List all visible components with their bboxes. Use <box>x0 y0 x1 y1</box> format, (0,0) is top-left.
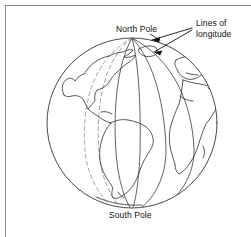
globe-outline <box>47 38 217 208</box>
lines-of-longitude-label-line2: longitude <box>196 29 231 39</box>
annotation-arrows <box>152 28 192 55</box>
solid-meridian-2 <box>132 38 140 207</box>
lines-of-longitude-label: Lines of longitude <box>196 18 250 39</box>
continent-europe-detail <box>186 73 198 75</box>
figure-canvas: North Pole South Pole Lines of longitude <box>0 0 251 237</box>
south-pole-label: South Pole <box>109 210 152 220</box>
continent-south-america <box>100 120 154 199</box>
continent-arabia <box>208 88 217 99</box>
north-pole-label: North Pole <box>116 24 157 34</box>
lines-of-longitude-label-line1: Lines of <box>196 18 227 28</box>
solid-meridian-1 <box>115 38 132 207</box>
solid-meridian-4 <box>132 38 194 208</box>
continent-africa-detail <box>180 96 193 101</box>
continent-central-america <box>88 109 111 123</box>
continent-caribbean <box>101 112 112 114</box>
continent-north-america <box>62 50 135 109</box>
continent-madagascar <box>203 146 205 158</box>
continent-africa <box>169 80 218 174</box>
continent-europe <box>175 57 213 80</box>
